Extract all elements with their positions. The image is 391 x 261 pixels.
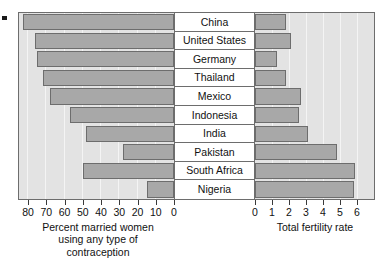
category-label-row: Germany <box>175 50 254 69</box>
left-bar-row <box>19 180 174 199</box>
tick-label-right-2: 2 <box>286 205 292 219</box>
right-axis-title-line-1: Total fertility rate <box>250 221 380 233</box>
category-label: Nigeria <box>198 184 231 195</box>
left-bar-row <box>19 106 174 125</box>
left-bar-row <box>19 143 174 162</box>
bar-fertility-india <box>255 126 308 142</box>
left-bar-row <box>19 50 174 69</box>
left-bar-rows <box>19 13 174 199</box>
right-bar-row <box>255 106 374 125</box>
bar-fertility-nigeria <box>255 181 354 197</box>
right-bar-row <box>255 87 374 106</box>
tick-label-left-20: 20 <box>132 205 144 219</box>
bar-contraception-china <box>23 14 174 30</box>
bar-contraception-nigeria <box>147 181 174 197</box>
left-axis-tick-labels: 80706050403020100 <box>0 205 200 219</box>
tick-label-left-30: 30 <box>113 205 125 219</box>
right-plot-area <box>254 12 375 200</box>
category-label: South Africa <box>186 165 243 176</box>
category-label: United States <box>183 35 246 46</box>
left-plot-area <box>18 12 175 200</box>
bar-contraception-germany <box>37 51 174 67</box>
left-axis-title-line-3: contraception <box>8 246 188 258</box>
left-bar-row <box>19 162 174 181</box>
category-label: Mexico <box>198 91 231 102</box>
tick-label-right-1: 1 <box>269 205 275 219</box>
right-bar-row <box>255 162 374 181</box>
tick-label-left-70: 70 <box>41 205 53 219</box>
category-label-row: Indonesia <box>175 106 254 125</box>
bar-fertility-mexico <box>255 88 301 104</box>
right-axis-tick-labels: 0123456 <box>230 205 390 219</box>
category-label: China <box>201 17 228 28</box>
tick-label-right-3: 3 <box>303 205 309 219</box>
category-label-row: Nigeria <box>175 180 254 199</box>
right-bar-row <box>255 143 374 162</box>
bar-contraception-indonesia <box>70 107 174 123</box>
bar-fertility-united-states <box>255 33 291 49</box>
category-label-row: Mexico <box>175 87 254 106</box>
left-axis-title-line-2: using any type of <box>8 233 188 245</box>
category-label: India <box>203 128 226 139</box>
category-label-row: Thailand <box>175 69 254 88</box>
category-label-row: China <box>175 13 254 32</box>
bar-contraception-united-states <box>35 33 174 49</box>
left-bar-row <box>19 125 174 144</box>
category-label-column: ChinaUnited StatesGermanyThailandMexicoI… <box>175 12 254 200</box>
tick-label-left-80: 80 <box>22 205 34 219</box>
page-artifact-mark <box>2 16 7 20</box>
tick-label-left-60: 60 <box>59 205 71 219</box>
left-axis-title: Percent married womenusing any type ofco… <box>8 221 188 258</box>
right-bar-row <box>255 32 374 51</box>
bar-fertility-indonesia <box>255 107 299 123</box>
bar-contraception-india <box>86 126 174 142</box>
bar-contraception-thailand <box>43 70 174 86</box>
category-label-row: South Africa <box>175 162 254 181</box>
bar-fertility-pakistan <box>255 144 337 160</box>
chart-figure: ChinaUnited StatesGermanyThailandMexicoI… <box>0 0 391 261</box>
category-label-row: India <box>175 125 254 144</box>
left-axis-title-line-1: Percent married women <box>8 221 188 233</box>
tick-label-left-50: 50 <box>77 205 89 219</box>
tick-label-right-6: 6 <box>354 205 360 219</box>
category-label: Indonesia <box>192 110 238 121</box>
right-axis-title: Total fertility rate <box>250 221 380 233</box>
right-bar-rows <box>255 13 374 199</box>
category-label: Thailand <box>194 72 234 83</box>
bar-fertility-thailand <box>255 70 286 86</box>
right-bar-row <box>255 180 374 199</box>
category-label: Germany <box>193 54 236 65</box>
left-bar-row <box>19 13 174 32</box>
tick-label-left-10: 10 <box>150 205 162 219</box>
tick-label-right-0: 0 <box>252 205 258 219</box>
category-label-row: United States <box>175 32 254 51</box>
right-bar-row <box>255 69 374 88</box>
tick-label-left-0: 0 <box>171 205 177 219</box>
tick-label-right-5: 5 <box>337 205 343 219</box>
bar-fertility-germany <box>255 51 277 67</box>
category-label: Pakistan <box>194 147 234 158</box>
bar-contraception-south-africa <box>83 163 174 179</box>
bar-contraception-pakistan <box>123 144 174 160</box>
bar-fertility-china <box>255 14 286 30</box>
bar-fertility-south-africa <box>255 163 355 179</box>
right-bar-row <box>255 13 374 32</box>
bar-contraception-mexico <box>50 88 174 104</box>
tick-label-left-40: 40 <box>95 205 107 219</box>
left-bar-row <box>19 69 174 88</box>
left-bar-row <box>19 32 174 51</box>
tick-label-right-4: 4 <box>320 205 326 219</box>
right-bar-row <box>255 50 374 69</box>
category-label-row: Pakistan <box>175 143 254 162</box>
left-bar-row <box>19 87 174 106</box>
right-bar-row <box>255 125 374 144</box>
